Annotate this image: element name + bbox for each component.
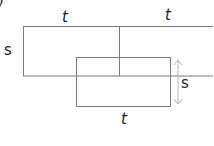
bottom-rectangle: [77, 58, 171, 107]
label-left-s: s: [4, 43, 12, 58]
label-right-s: s: [181, 76, 189, 91]
label-top-left-t: t: [62, 10, 68, 25]
rectangles-diagram: [0, 0, 213, 146]
corner-glyph: ): [0, 0, 4, 7]
top-rectangle: [24, 27, 214, 77]
label-top-right-t: t: [165, 8, 171, 23]
label-bottom-t: t: [121, 112, 127, 127]
